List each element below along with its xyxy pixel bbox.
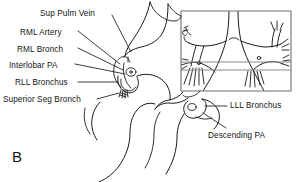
leader-rml-artery [78, 31, 120, 64]
label-rml-artery: RML Artery [20, 28, 62, 37]
label-sup-pulm-vein: Sup Pulm Vein [40, 9, 95, 18]
leader-descending-pa [203, 113, 226, 128]
main-hilum-drawing [84, 2, 170, 182]
anatomical-figure-panel-b: Sup Pulm Vein RML Artery RML Bronch Inte… [0, 0, 298, 182]
bronchial-tree-inset [180, 11, 291, 91]
label-rml-bronch: RML Bronch [17, 45, 63, 54]
label-lll-bronchus: LLL Bronchus [230, 101, 281, 110]
leader-interlobar-pa [75, 64, 125, 74]
inset-connector-lower [150, 2, 181, 21]
leader-sup-pulm-vein [112, 15, 131, 52]
leader-superior-seg-bronch [97, 93, 119, 99]
label-rll-bronchus: RLL Bronchus [15, 78, 68, 87]
leader-rml-bronch [78, 48, 123, 70]
inset-connector-bottom [183, 91, 200, 97]
panel-letter: B [12, 148, 22, 165]
label-interlobar-pa: Interlobar PA [9, 61, 57, 70]
inset-connector-upper [168, 4, 181, 16]
label-superior-seg-bronch: Superior Seg Bronch [3, 95, 81, 104]
label-descending-pa: Descending PA [208, 131, 265, 140]
